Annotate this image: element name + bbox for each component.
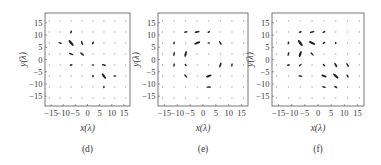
y-tick-label: −15 <box>29 91 42 101</box>
y-tick-label: 10 <box>147 30 156 40</box>
y-tick-label: 10 <box>261 30 270 40</box>
panel-f: −15−15−10−10−5−5005510101515x(λ)y(λ)(f) <box>240 0 381 165</box>
figure-caption: (f) <box>313 144 323 155</box>
polarization-vector <box>206 86 211 88</box>
polarization-vector <box>309 40 316 45</box>
x-axis-label: x(λ) <box>310 123 326 134</box>
polarization-vector <box>206 74 212 78</box>
polarization-vector <box>207 31 210 33</box>
x-tick-label: −10 <box>57 108 70 118</box>
polarization-vector <box>298 31 302 34</box>
y-tick-label: −15 <box>256 91 269 101</box>
y-axis-label: y(λ) <box>131 52 142 68</box>
polarization-vector <box>184 74 188 78</box>
polarization-vector <box>173 52 175 57</box>
figure-caption: (d) <box>82 144 93 155</box>
polarization-vector <box>113 75 116 77</box>
polarization-vector <box>298 51 302 58</box>
polarization-vector <box>68 52 74 55</box>
x-tick-label: 0 <box>85 108 89 118</box>
plot-d: −15−15−10−10−5−5005510101515x(λ)y(λ)(d) <box>0 0 145 165</box>
y-tick-label: −5 <box>33 67 42 77</box>
x-tick-label: −15 <box>272 108 285 118</box>
polarization-vector <box>287 64 291 67</box>
polarization-vector <box>334 62 338 67</box>
y-tick-label: 0 <box>38 55 42 65</box>
x-axis-label: x(λ) <box>195 123 211 134</box>
y-axis-label: y(λ) <box>18 52 29 68</box>
polarization-vector <box>322 30 326 33</box>
polarization-vector <box>173 41 175 44</box>
y-tick-label: 5 <box>38 42 42 52</box>
y-tick-label: −10 <box>256 79 269 89</box>
polarization-vector <box>69 64 73 67</box>
polarization-vector <box>287 41 290 45</box>
y-tick-label: −10 <box>29 79 42 89</box>
y-tick-label: 15 <box>147 18 156 28</box>
panel-d: −15−15−10−10−5−5005510101515x(λ)y(λ)(d) <box>0 0 145 165</box>
x-tick-label: −15 <box>158 108 171 118</box>
polarization-vector <box>92 64 95 66</box>
x-tick-label: 0 <box>201 108 205 118</box>
plot-frame <box>272 13 364 106</box>
polarization-vector <box>322 86 326 89</box>
y-tick-label: 15 <box>261 18 270 28</box>
x-tick-label: −5 <box>71 108 80 118</box>
x-axis-label: x(λ) <box>79 123 95 134</box>
polarization-vector <box>58 42 62 45</box>
polarization-vector <box>346 63 350 68</box>
polarization-vector <box>322 41 325 44</box>
polarization-vector <box>334 85 338 88</box>
polarization-vector <box>92 75 94 78</box>
y-tick-label: −5 <box>146 67 155 77</box>
polarization-vector <box>310 52 314 56</box>
plot-f: −15−15−10−10−5−5005510101515x(λ)y(λ)(f) <box>240 0 381 165</box>
x-tick-label: −5 <box>300 108 309 118</box>
y-tick-label: 0 <box>151 55 155 65</box>
x-tick-label: 5 <box>329 108 333 118</box>
polarization-vector <box>91 41 94 45</box>
polarization-vector <box>103 86 105 89</box>
plot-frame <box>158 13 248 106</box>
x-tick-label: −5 <box>186 108 195 118</box>
polarization-vector <box>310 31 315 33</box>
y-tick-label: 15 <box>34 18 43 28</box>
polarization-vector <box>298 75 302 77</box>
y-tick-label: −5 <box>260 67 269 77</box>
x-tick-label: −10 <box>285 108 298 118</box>
polarization-vector <box>80 40 83 45</box>
x-tick-label: 0 <box>316 108 320 118</box>
y-axis-label: y(λ) <box>245 52 256 68</box>
polarization-vector <box>101 73 107 80</box>
polarization-vector <box>184 31 188 33</box>
x-tick-label: 15 <box>353 108 362 118</box>
polarization-vector <box>70 30 73 34</box>
x-tick-label: 10 <box>224 108 233 118</box>
polarization-vector <box>194 41 201 45</box>
polarization-vector <box>194 31 199 34</box>
x-tick-label: 10 <box>340 108 349 118</box>
polarization-vector <box>219 41 223 46</box>
y-tick-label: −15 <box>142 91 155 101</box>
polarization-vector <box>297 39 303 46</box>
polarization-vector <box>287 52 290 56</box>
polarization-vector <box>102 64 107 66</box>
y-tick-label: 5 <box>151 42 155 52</box>
y-tick-label: −10 <box>142 79 155 89</box>
plot-frame <box>45 13 130 106</box>
y-tick-label: 10 <box>34 30 43 40</box>
x-tick-label: 10 <box>108 108 117 118</box>
x-tick-label: 5 <box>98 108 102 118</box>
polarization-vector <box>346 74 349 78</box>
polarization-vector <box>321 74 327 78</box>
polarization-vector <box>332 73 338 79</box>
polarization-vector <box>231 63 233 67</box>
polarization-vector <box>184 63 187 66</box>
y-tick-label: 5 <box>265 42 269 52</box>
x-tick-label: 5 <box>214 108 218 118</box>
polarization-vector <box>335 42 337 45</box>
polarization-vector <box>80 52 85 56</box>
polarization-vector <box>173 63 175 67</box>
polarization-vector <box>184 51 188 57</box>
polarization-vector <box>322 63 325 66</box>
